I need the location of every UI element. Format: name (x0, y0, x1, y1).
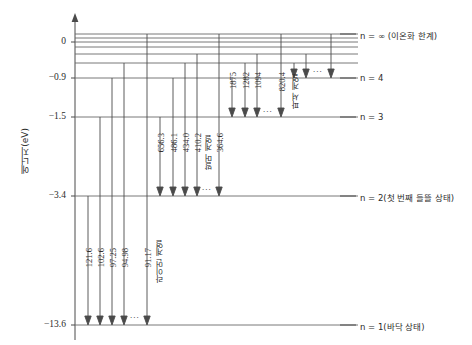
series-ellipsis-paschen: ... (263, 104, 273, 114)
wavelength-label-balmer-3: 434.0 (181, 133, 191, 152)
series-label-paschen: 파셔 계열 (290, 74, 301, 109)
level-label-inf: n = ∞ (이온화 한계) (360, 29, 437, 41)
wavelength-label-balmer-2: 486.1 (169, 133, 179, 152)
y-tick-label-1.5: −1.5 (30, 111, 66, 121)
wavelength-label-balmer-1: 656.3 (156, 133, 166, 152)
series-label-lyman: 라이먼 계열 (154, 240, 165, 283)
series-arrows-balmer (157, 34, 222, 196)
wavelength-label-paschen-1: 1875 (228, 72, 238, 89)
y-axis (71, 13, 78, 340)
energy-level-diagram (0, 0, 472, 345)
y-axis-title: 에너지(eV) (18, 128, 31, 174)
wavelength-label-lyman-1: 121.6 (84, 248, 94, 267)
y-tick-label-0.9: −0.9 (30, 72, 66, 82)
y-tick-label-3.4: −3.4 (30, 190, 66, 200)
wavelength-label-lyman-5: 91.17 (143, 248, 153, 267)
level-lines (75, 34, 358, 325)
y-tick-label-13.6: −13.6 (22, 319, 66, 329)
wavelength-label-paschen-3: 1094 (253, 72, 263, 89)
series-ellipsis-lyman: ... (130, 310, 140, 320)
level-label-n4: n = 4 (360, 73, 383, 83)
level-label-n2: n = 2(첫 번째 들뜰 상태) (360, 191, 454, 203)
wavelength-label-lyman-4: 94.98 (120, 248, 130, 267)
y-tick-label-0: 0 (36, 36, 66, 46)
wavelength-label-lyman-3: 97.25 (108, 248, 118, 267)
level-stubs (340, 34, 356, 325)
wavelength-label-paschen-2: 1282 (241, 72, 251, 89)
wavelength-label-lyman-2: 102.6 (96, 248, 106, 267)
level-label-n3: n = 3 (360, 112, 383, 122)
series-ellipsis-balmer: ... (202, 182, 212, 192)
series-label-balmer: 발머 계열 (203, 135, 214, 170)
series-ellipsis-brackett: ... (313, 64, 323, 74)
wavelength-label-balmer-5: 364.6 (215, 133, 225, 152)
level-label-n1: n = 1(바닥 상태) (360, 320, 425, 332)
wavelength-label-paschen-4: 820.4 (277, 72, 287, 91)
wavelength-label-balmer-4: 410.2 (193, 133, 203, 152)
